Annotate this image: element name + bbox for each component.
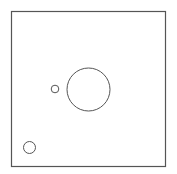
- frame-border: [12, 12, 166, 167]
- large-circle: [67, 68, 110, 111]
- shapes-group: [24, 68, 111, 154]
- small-circle: [51, 85, 59, 93]
- bottom-left-circle: [24, 142, 36, 154]
- diagram-canvas: [0, 0, 177, 174]
